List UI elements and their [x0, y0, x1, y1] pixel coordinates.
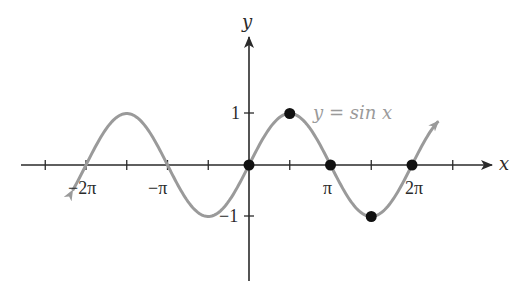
y-axis-label: y	[241, 11, 253, 32]
curve-label-text: y = sin x	[312, 102, 392, 123]
key-point	[407, 160, 418, 171]
tick-label-yneg1: −1	[219, 206, 238, 226]
key-point	[244, 160, 255, 171]
key-point	[366, 211, 377, 222]
key-point	[325, 160, 336, 171]
tick-label-y1: 1	[231, 103, 240, 123]
key-point	[284, 108, 295, 119]
tick-label-2pi: 2π	[405, 178, 423, 198]
x-axis-label: x	[499, 153, 509, 174]
sine-graph: x y −2π −π π 2π 1 −1 y = sin x	[0, 0, 525, 292]
tick-label-negpi: −π	[148, 178, 167, 198]
tick-label-neg2pi: −2π	[68, 178, 96, 198]
tick-label-pi: π	[323, 178, 332, 198]
curve-label: y = sin x	[312, 102, 392, 123]
